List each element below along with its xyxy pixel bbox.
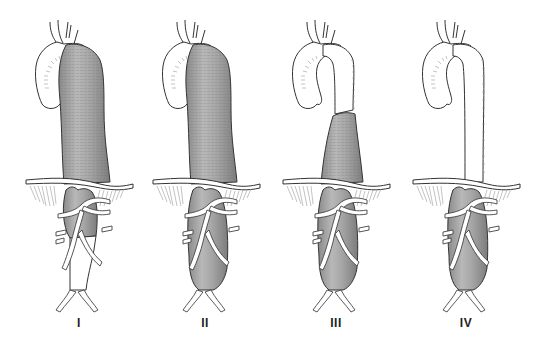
aneurysm-classification-figure [0,0,556,349]
panel-label-ii: II [201,316,209,330]
panel-label-iv: IV [460,316,472,330]
panel-type-i [26,20,133,312]
panel-label-iii: III [330,316,342,330]
panel-label-i: I [77,316,81,330]
panel-type-iii [283,20,390,312]
panel-type-iv [413,20,520,312]
panel-type-ii [153,20,260,312]
